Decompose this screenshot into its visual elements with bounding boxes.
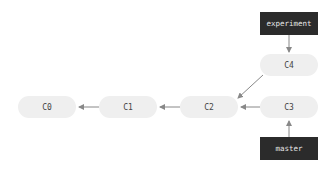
commit-graph-diagram: experiment C4 C0 C1 C2 C3 master bbox=[0, 0, 331, 171]
commit-c3: C3 bbox=[260, 96, 318, 118]
branch-label: master bbox=[275, 144, 302, 153]
edge-c4-c2 bbox=[238, 75, 263, 98]
commit-c4: C4 bbox=[260, 54, 318, 76]
commit-c0: C0 bbox=[18, 96, 76, 118]
commit-label: C3 bbox=[284, 103, 294, 112]
commit-c1: C1 bbox=[99, 96, 157, 118]
branch-label: experiment bbox=[266, 19, 311, 28]
commit-label: C0 bbox=[42, 103, 52, 112]
commit-c2: C2 bbox=[180, 96, 238, 118]
branch-experiment: experiment bbox=[260, 12, 318, 35]
branch-master: master bbox=[260, 137, 318, 160]
commit-label: C1 bbox=[123, 103, 133, 112]
commit-label: C2 bbox=[204, 103, 214, 112]
commit-label: C4 bbox=[284, 61, 294, 70]
